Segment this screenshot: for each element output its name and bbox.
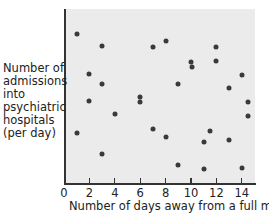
data-point [208, 129, 213, 134]
x-tick [114, 178, 115, 183]
x-tick-label: 10 [184, 186, 199, 200]
data-point [163, 39, 168, 44]
data-point [246, 100, 251, 105]
data-point [227, 86, 232, 91]
data-point [100, 152, 105, 157]
data-point [201, 140, 206, 145]
data-point [227, 138, 232, 143]
data-point [201, 167, 206, 172]
data-point [100, 44, 105, 49]
data-point [74, 32, 79, 37]
y-axis-title: Number of admissions into psychiatric ho… [3, 62, 65, 140]
data-point [246, 114, 251, 119]
x-tick-label: 6 [137, 186, 144, 200]
data-point [214, 59, 219, 64]
data-point [190, 65, 195, 70]
x-tick [165, 178, 166, 183]
plot-area [65, 9, 255, 183]
x-tick-label: 4 [111, 186, 118, 200]
x-tick [216, 178, 217, 183]
data-point [150, 45, 155, 50]
x-tick [190, 178, 191, 183]
data-point [150, 127, 155, 132]
data-point [163, 135, 168, 140]
data-point [74, 131, 79, 136]
data-point [87, 99, 92, 104]
data-point [176, 82, 181, 87]
x-tick [140, 178, 141, 183]
x-tick-label: 14 [234, 186, 249, 200]
data-point [176, 163, 181, 168]
x-tick-label: 0 [60, 186, 67, 200]
data-point [239, 73, 244, 78]
x-tick [241, 178, 242, 183]
x-tick-label: 2 [86, 186, 93, 200]
data-point [87, 72, 92, 77]
x-tick-label: 8 [162, 186, 169, 200]
x-tick-label: 12 [209, 186, 224, 200]
data-point [239, 166, 244, 171]
data-point [112, 112, 117, 117]
x-axis-title: Number of days away from a full moon [69, 199, 269, 213]
x-tick [89, 178, 90, 183]
data-point [100, 82, 105, 87]
data-point [138, 100, 143, 105]
x-axis-line [64, 183, 256, 185]
data-point [214, 45, 219, 50]
y-title-line: (per day) [3, 127, 65, 140]
